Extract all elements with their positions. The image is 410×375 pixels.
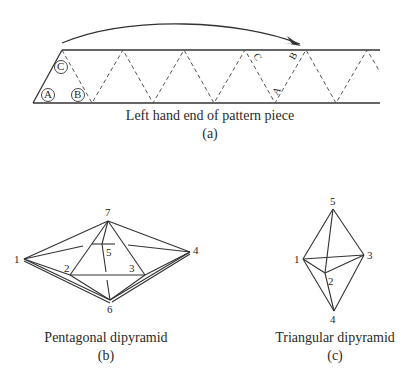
pentagonal-dipyramid [24, 221, 190, 303]
figure-c-caption: Triangular dipyramid [275, 330, 395, 346]
vertex-label-2: 2 [64, 263, 70, 274]
diagram-canvas [0, 0, 410, 375]
vertex-label-1: 1 [14, 254, 20, 265]
tri-vertex-label-3: 3 [367, 250, 373, 261]
vertex-label-5: 5 [106, 247, 112, 258]
vertex-label-4: 4 [193, 245, 199, 256]
figure-a-caption: Left hand end of pattern piece [126, 108, 294, 124]
fold-zigzag [62, 50, 380, 103]
curved-arrow-icon [62, 24, 300, 44]
circled-label-a: A [44, 89, 52, 100]
circled-label-b: B [74, 89, 81, 100]
arrowhead-icon [284, 36, 301, 46]
tri-vertex-label-2: 2 [328, 276, 334, 287]
tri-vertex-label-1: 1 [294, 254, 300, 265]
figure-b-sublabel: (b) [98, 348, 114, 364]
circled-label-c: C [57, 61, 64, 72]
vertex-label-7: 7 [105, 207, 111, 218]
figure-b-caption: Pentagonal dipyramid [44, 330, 167, 346]
tri-vertex-label-5: 5 [330, 196, 336, 207]
vertex-label-3: 3 [129, 263, 135, 274]
vertex-label-6: 6 [107, 304, 113, 315]
figure-c-sublabel: (c) [327, 348, 343, 364]
tri-vertex-label-4: 4 [330, 314, 336, 325]
triangular-dipyramid [303, 209, 364, 311]
figure-a-sublabel: (a) [202, 126, 218, 142]
